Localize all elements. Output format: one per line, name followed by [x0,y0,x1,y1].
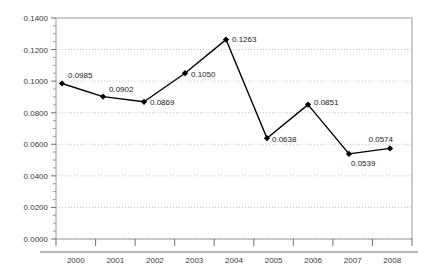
x-axis-tick-label: 2004 [225,256,243,265]
data-point-label: 0.1263 [232,35,257,44]
y-axis-tick-label: 0.0000 [24,235,49,244]
y-axis-tick-label: 0.1000 [24,77,49,86]
line-chart: 0.0000 0.0200 0.0400 0.0600 0.0800 0.100… [0,0,430,275]
x-axis-tick-label: 2002 [146,256,164,265]
x-axis-tick-label: 2008 [383,256,401,265]
y-axis-tick-label: 0.0800 [24,109,49,118]
x-axis-tick-label: 2007 [344,256,362,265]
x-axis-tick-label: 2001 [106,256,124,265]
data-point-label: 0.0539 [351,159,376,168]
x-axis-tick-label: 2005 [265,256,283,265]
y-axis-tick-label: 0.0600 [24,140,49,149]
x-axis-ticks [56,239,412,246]
chart-container: 0.0000 0.0200 0.0400 0.0600 0.0800 0.100… [0,0,430,275]
y-axis-tick-label: 0.1400 [24,14,49,23]
x-axis-tick-label: 2003 [186,256,204,265]
x-axis-tick-label: 2000 [67,256,85,265]
y-axis-tick-label: 0.0200 [24,203,49,212]
data-point-label: 0.0985 [68,71,93,80]
data-point-label: 0.0638 [272,135,297,144]
data-point-label: 0.0574 [369,135,394,144]
plot-area-background [56,18,412,239]
data-point-label: 0.0902 [109,85,134,94]
data-point-label: 0.0869 [150,98,175,107]
x-axis-labels: 2000 2001 2002 2003 2004 2005 2006 2007 … [67,256,402,265]
x-axis-tick-label: 2006 [304,256,322,265]
y-axis-tick-label: 0.1200 [24,46,49,55]
data-point-label: 0.1050 [191,70,216,79]
y-axis-tick-label: 0.0400 [24,172,49,181]
data-point-label: 0.0851 [314,98,339,107]
y-axis-labels: 0.0000 0.0200 0.0400 0.0600 0.0800 0.100… [24,14,49,244]
